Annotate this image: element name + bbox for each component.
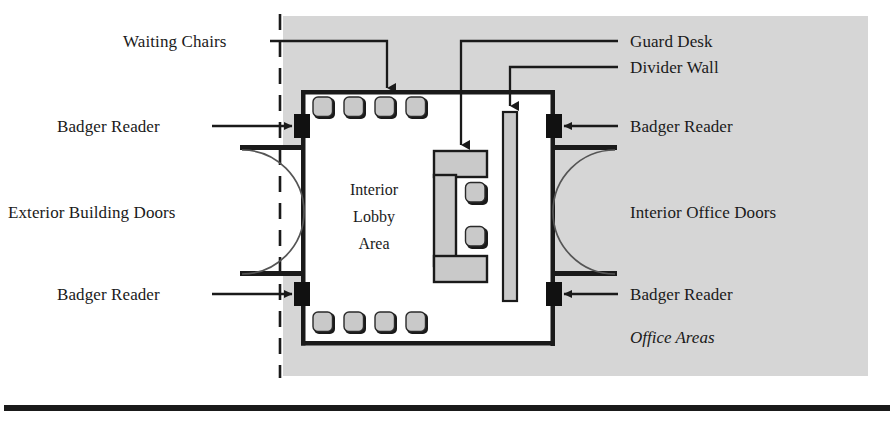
label-divider-wall: Divider Wall — [630, 58, 719, 77]
bottom-divider-rule — [4, 405, 890, 411]
waiting-chair — [406, 97, 428, 119]
label-interior-office-doors: Interior Office Doors — [630, 203, 776, 222]
label-waiting-chairs: Waiting Chairs — [123, 32, 226, 51]
badge-reader-bottom-right[interactable] — [546, 282, 562, 306]
badge-reader-top-left[interactable] — [294, 114, 310, 138]
waiting-chair — [313, 97, 335, 119]
waiting-chair — [344, 312, 366, 334]
label-guard-desk: Guard Desk — [630, 32, 713, 51]
label-lobby-line-3: Area — [358, 235, 389, 252]
label-badge-reader-top-right: Badger Reader — [630, 117, 733, 136]
guard-chair — [466, 183, 489, 206]
label-office-areas: Office Areas — [630, 328, 715, 347]
waiting-chair — [344, 97, 366, 119]
waiting-chair — [375, 97, 397, 119]
badge-reader-top-right[interactable] — [546, 114, 562, 138]
divider-wall[interactable] — [503, 112, 517, 301]
label-badge-reader-top-left: Badger Reader — [57, 117, 160, 136]
label-badge-reader-bottom-left: Badger Reader — [57, 285, 160, 304]
label-lobby-line-2: Lobby — [353, 208, 395, 226]
waiting-chair — [313, 312, 335, 334]
badge-reader-bottom-left[interactable] — [294, 282, 310, 306]
waiting-chair — [406, 312, 428, 334]
floor-plan-svg: Waiting Chairs Badger Reader Exterior Bu… — [0, 0, 894, 436]
label-badge-reader-bottom-right: Badger Reader — [630, 285, 733, 304]
guard-chair — [466, 227, 489, 250]
diagram-canvas: Waiting Chairs Badger Reader Exterior Bu… — [0, 0, 894, 436]
label-exterior-building-doors: Exterior Building Doors — [8, 203, 176, 222]
waiting-chair — [375, 312, 397, 334]
label-lobby-line-1: Interior — [350, 181, 399, 198]
